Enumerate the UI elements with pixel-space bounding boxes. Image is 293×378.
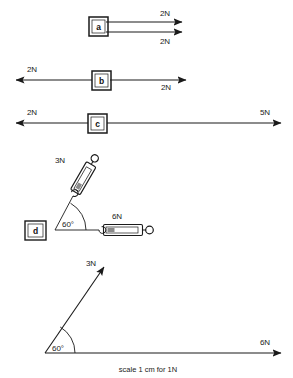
angle-label-vector: 60° bbox=[52, 344, 64, 353]
spring-balance-6n-pointer bbox=[108, 228, 115, 232]
force-diagram-figure: a 2N 2N b 2N 2N c 2N 5N 60° d bbox=[0, 0, 293, 378]
figure-background bbox=[0, 0, 293, 378]
block-a-label: a bbox=[96, 22, 101, 32]
angle-label-d: 60° bbox=[62, 220, 74, 229]
vector-label-3n: 3N bbox=[86, 259, 96, 268]
force-label-d-3n: 3N bbox=[55, 156, 65, 165]
force-label-a-bottom: 2N bbox=[160, 37, 170, 46]
block-c-label: c bbox=[95, 119, 100, 129]
force-label-b-left: 2N bbox=[27, 65, 37, 74]
block-b-label: b bbox=[99, 76, 104, 86]
force-label-c-left: 2N bbox=[27, 108, 37, 117]
force-label-d-6n: 6N bbox=[112, 212, 122, 221]
force-label-b-right: 2N bbox=[161, 83, 171, 92]
block-d-label: d bbox=[33, 226, 38, 236]
force-label-a-top: 2N bbox=[160, 9, 170, 18]
force-label-c-right: 5N bbox=[260, 108, 270, 117]
scale-caption: scale 1 cm for 1N bbox=[119, 365, 177, 374]
vector-label-6n: 6N bbox=[260, 338, 270, 347]
